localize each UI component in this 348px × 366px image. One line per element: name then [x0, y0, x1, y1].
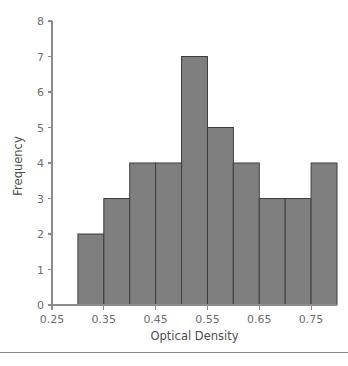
x-axis-title: Optical Density: [151, 329, 239, 343]
histogram-bar: [78, 234, 104, 305]
histogram-bar: [156, 163, 182, 305]
x-tick-label: 0.55: [195, 313, 220, 326]
y-tick-label: 0: [37, 299, 44, 312]
y-tick-label: 5: [37, 122, 44, 135]
histogram-bar: [259, 199, 285, 306]
y-tick-label: 2: [37, 228, 44, 241]
histogram-plot: 0123456780.250.350.450.550.650.75Optical…: [0, 0, 348, 366]
y-tick-label: 6: [37, 86, 44, 99]
y-tick-label: 8: [37, 15, 44, 28]
histogram-figure: 0123456780.250.350.450.550.650.75Optical…: [0, 0, 348, 366]
y-tick-label: 4: [37, 157, 44, 170]
x-tick-label: 0.25: [40, 313, 65, 326]
y-tick-label: 7: [37, 51, 44, 64]
histogram-bar: [182, 57, 208, 306]
histogram-bar: [130, 163, 156, 305]
x-tick-label: 0.45: [143, 313, 168, 326]
x-tick-label: 0.75: [299, 313, 324, 326]
histogram-bar: [233, 163, 259, 305]
x-tick-label: 0.65: [247, 313, 272, 326]
histogram-bar: [207, 128, 233, 306]
histogram-bar: [285, 199, 311, 306]
y-tick-label: 3: [37, 193, 44, 206]
y-axis-title: Frequency: [11, 136, 25, 196]
histogram-bar: [311, 163, 337, 305]
x-tick-label: 0.35: [92, 313, 117, 326]
footer-divider: [0, 352, 348, 353]
histogram-bar: [104, 199, 130, 306]
y-tick-label: 1: [37, 264, 44, 277]
